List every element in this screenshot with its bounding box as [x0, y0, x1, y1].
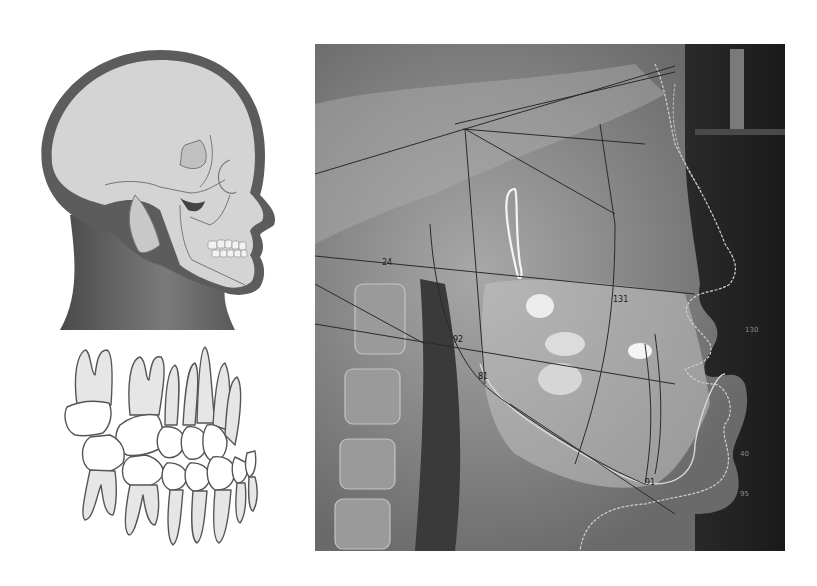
measurement-label-40: 40 — [740, 450, 749, 458]
head-skull-drawing — [30, 45, 280, 335]
measurement-label-95: 95 — [740, 490, 749, 498]
measurement-label-92: 92 — [453, 335, 463, 344]
measurement-label-81: 81 — [478, 372, 488, 381]
measurement-label-130: 130 — [745, 326, 758, 334]
measurement-label-24: 24 — [382, 258, 392, 267]
measurement-label-91: 91 — [645, 478, 655, 487]
head-illustration — [30, 45, 280, 335]
cephalometric-radiograph: 24 92 81 131 91 130 40 95 — [315, 44, 785, 551]
radiograph-with-tracings: 24 92 81 131 91 130 40 95 — [315, 44, 785, 551]
calibration-ruler — [730, 49, 744, 129]
dentition-drawing — [55, 345, 270, 555]
measurement-label-131: 131 — [613, 295, 628, 304]
teeth-illustration — [55, 345, 270, 555]
